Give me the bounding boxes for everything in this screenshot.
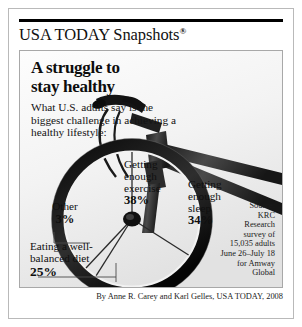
slice-value-exercise: 38%	[124, 194, 184, 208]
headline-line-1: A struggle to	[31, 59, 181, 78]
slice-label-exercise: Getting enough exercise 38%	[124, 159, 184, 208]
source-line-2: KRC	[209, 211, 275, 221]
slice-label-diet-line2: balanced diet	[30, 253, 114, 265]
source-line-4: survey of	[209, 230, 275, 240]
slice-value-other: 3%	[42, 213, 88, 227]
slice-value-diet: 25%	[30, 265, 114, 279]
source-line-5: 15,035 adults	[209, 239, 275, 249]
registered-trademark-icon: ®	[179, 26, 186, 36]
headline-line-2: stay healthy	[31, 78, 181, 97]
snapshot-infographic: USA TODAY Snapshots®	[0, 0, 302, 327]
byline: By Anne R. Carey and Karl Gelles, USA TO…	[19, 292, 283, 301]
header: USA TODAY Snapshots®	[19, 19, 283, 45]
source-line-6: June 26–July 18	[209, 249, 275, 259]
source-line-3: Research	[209, 220, 275, 230]
wheel-hub	[123, 212, 141, 227]
source-block: Source: KRC Research survey of 15,035 ad…	[209, 201, 275, 278]
brand-title: USA TODAY Snapshots®	[19, 25, 283, 45]
slice-label-other: Other 3%	[42, 201, 88, 226]
brand-name: USA TODAY Snapshots	[19, 25, 179, 44]
subhead: What U.S. adults say is the biggest chal…	[31, 101, 183, 139]
slice-label-diet: Eating a well- balanced diet 25%	[30, 241, 114, 278]
headline: A struggle to stay healthy	[31, 59, 181, 96]
chart-panel: A struggle to stay healthy What U.S. adu…	[19, 50, 283, 288]
slice-label-exercise-line2: enough	[124, 171, 184, 183]
header-rule	[19, 19, 283, 22]
source-line-1: Source:	[209, 201, 275, 211]
source-line-7: for Amway	[209, 259, 275, 269]
source-line-8: Global	[209, 268, 275, 278]
